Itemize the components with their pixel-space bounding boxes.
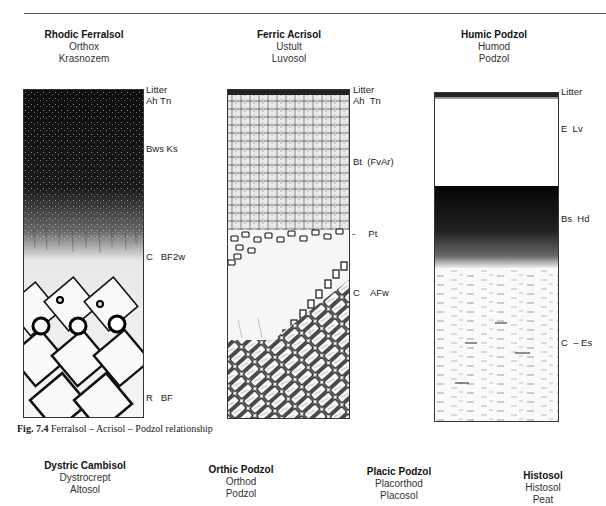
acrisol-profile-illustration [228, 90, 349, 418]
profile-name: Histosol [493, 470, 593, 482]
horizon-label: R BF [146, 393, 173, 403]
profile-name: Ferric Acrisol [219, 29, 359, 41]
profile-name: Dystric Cambisol [15, 460, 155, 472]
figure-caption-text: Ferralsol – Acrisol – Podzol relationshi… [51, 423, 213, 434]
profile-synonym: Histosol [493, 482, 593, 494]
profile-name: Rhodic Ferralsol [14, 29, 154, 41]
horizon-label: Bt (FvAr) [353, 157, 394, 167]
profile-synonym: Placorthod [329, 478, 469, 490]
horizon-label: Ah Tn [146, 96, 171, 106]
profile-synonym: Krasnozem [14, 53, 154, 65]
horizon-label: Ah Tn [353, 96, 381, 106]
soil-profile-podzol [434, 92, 559, 422]
horizon-label: Litter [353, 85, 374, 95]
profile-synonym: Podzol [424, 53, 564, 65]
profile-heading-histosol: Histosol Histosol Peat [493, 470, 593, 506]
podzol-profile-illustration [435, 93, 558, 421]
figure-number: Fig. 7.4 [17, 423, 48, 434]
profile-synonym: Luvosol [219, 53, 359, 65]
profile-synonym: Altosol [15, 484, 155, 496]
profile-name: Humic Podzol [424, 29, 564, 41]
profile-heading-acrisol: Ferric Acrisol Ustult Luvosol [219, 29, 359, 65]
profile-synonym: Humod [424, 41, 564, 53]
profile-synonym: Peat [493, 494, 593, 506]
soil-profile-ferralsol [23, 89, 144, 418]
top-rule [24, 13, 606, 14]
profile-name: Placic Podzol [329, 466, 469, 478]
soil-profile-acrisol [227, 89, 350, 419]
profile-synonym: Dystrocrept [15, 472, 155, 484]
profile-synonym: Ustult [219, 41, 359, 53]
profile-heading-orthic-podzol: Orthic Podzol Orthod Podzol [171, 464, 311, 500]
profile-synonym: Podzol [171, 488, 311, 500]
profile-heading-placic-podzol: Placic Podzol Placorthod Placosol [329, 466, 469, 502]
horizon-label: Litter [146, 85, 167, 95]
figure-caption: Fig. 7.4 Ferralsol – Acrisol – Podzol re… [17, 423, 213, 434]
horizon-label: E Lv [561, 124, 583, 134]
profile-synonym: Orthox [14, 41, 154, 53]
profile-synonym: Orthod [171, 476, 311, 488]
horizon-label: - Pt [352, 229, 377, 239]
profile-heading-ferralsol: Rhodic Ferralsol Orthox Krasnozem [14, 29, 154, 65]
horizon-label: Litter [561, 87, 582, 97]
ferralsol-profile-illustration [24, 90, 143, 417]
horizon-label: C BF2w [146, 252, 185, 262]
horizon-label: Bws Ks [146, 144, 178, 154]
profile-synonym: Placosol [329, 490, 469, 502]
horizon-label: Bs Hd [561, 214, 590, 224]
profile-heading-cambisol: Dystric Cambisol Dystrocrept Altosol [15, 460, 155, 496]
profile-name: Orthic Podzol [171, 464, 311, 476]
horizon-label: C – Es [561, 338, 592, 348]
horizon-label: C AFw [353, 288, 389, 298]
profile-heading-podzol: Humic Podzol Humod Podzol [424, 29, 564, 65]
